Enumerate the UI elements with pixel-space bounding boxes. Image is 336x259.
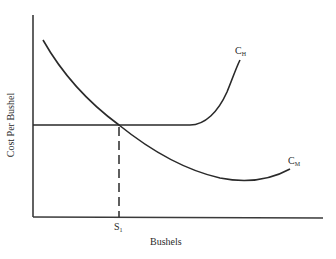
ch-sub: H <box>242 51 246 57</box>
ch-curve-label: CH <box>235 46 246 57</box>
ch-main: C <box>235 45 242 56</box>
y-axis-label: Cost Per Bushel <box>6 93 16 157</box>
cm-sub: M <box>295 161 300 167</box>
curve-ch <box>33 60 240 125</box>
s1-tick-label: S1 <box>114 222 123 233</box>
cm-curve-label: CM <box>288 156 300 167</box>
s1-sub: 1 <box>120 227 123 233</box>
curve-cm <box>43 40 290 180</box>
x-axis <box>33 217 323 218</box>
x-axis-label: Bushels <box>150 237 182 247</box>
cm-main: C <box>288 155 295 166</box>
chart-canvas <box>0 0 336 259</box>
